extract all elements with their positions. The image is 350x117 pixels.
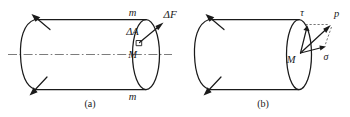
- panel-b-point-label: M: [286, 54, 297, 65]
- panel-b-resultant-label: p: [333, 8, 339, 19]
- stress-diagram-figure: m m ΔF ΔA M (a): [0, 0, 350, 117]
- panel-a-caption: (a): [84, 98, 95, 110]
- panel-a-section-label-top: m: [129, 7, 137, 18]
- panel-a-force-label: ΔF: [163, 8, 177, 20]
- figure-page: m m ΔF ΔA M (a): [0, 0, 350, 117]
- panel-a-section-label-bottom: m: [129, 91, 137, 102]
- panel-a-area-label: ΔA: [125, 26, 139, 37]
- panel-b-caption: (b): [257, 98, 269, 110]
- panel-a-point-label: M: [127, 49, 138, 60]
- panel-b-shear-label: τ: [300, 7, 304, 18]
